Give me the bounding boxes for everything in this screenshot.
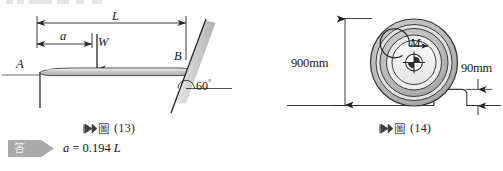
inclined-bar [171, 19, 216, 113]
angle-label-60deg: 60° [196, 79, 211, 92]
figure-page: L a W A B 60° 900mm 90mm M 圖 (13) 圖 (14)… [0, 0, 503, 171]
figure-13-caption: 圖 (13) [82, 120, 135, 136]
beam-plate [40, 68, 189, 76]
dimension-label-900mm: 900mm [291, 57, 328, 70]
caption-chinese-word-14: 圖 [394, 120, 405, 136]
double-arrow-flag-icon [82, 124, 93, 135]
figure-14-caption: 圖 (14) [378, 120, 431, 136]
caption-chinese-word-13: 圖 [98, 120, 109, 136]
point-label-A: A [16, 58, 24, 71]
answer-value: 0.194 [83, 141, 111, 155]
answer-row: 答 a = 0.194 L [8, 140, 121, 157]
figure13-group [2, 16, 232, 113]
dimension-900mm [333, 19, 372, 106]
double-arrow-flag-icon [378, 124, 389, 135]
dimension-label-a: a [60, 30, 66, 43]
point-label-B: B [174, 50, 182, 63]
answer-unit: L [114, 141, 121, 155]
support-A [2, 72, 40, 108]
caption-number-14: (14) [410, 121, 431, 136]
dimension-label-90mm: 90mm [461, 62, 492, 75]
dimension-90mm [466, 79, 492, 115]
moment-label-M: M [410, 37, 420, 50]
degree-symbol: ° [208, 78, 211, 87]
answer-expression: a = 0.194 L [63, 141, 121, 156]
angle-value: 60 [196, 79, 208, 93]
wheel [371, 19, 458, 106]
answer-tag-badge: 答 [8, 140, 54, 157]
dimension-label-L: L [112, 10, 119, 23]
caption-number-13: (13) [114, 121, 135, 136]
load-label-W: W [98, 36, 108, 49]
